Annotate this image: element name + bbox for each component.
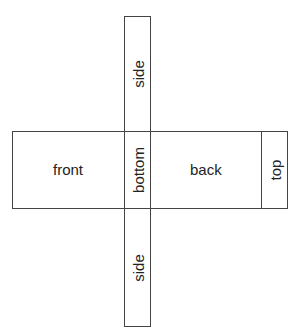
face-side-top: side (124, 16, 151, 132)
face-side-bottom-label: side (129, 254, 146, 282)
face-front-label: front (53, 161, 83, 178)
face-bottom-label: bottom (129, 147, 146, 193)
face-side-top-label: side (129, 60, 146, 88)
face-top: top (261, 131, 288, 209)
face-top-label: top (266, 160, 283, 181)
face-back-label: back (190, 161, 222, 178)
face-bottom: bottom (124, 131, 151, 209)
face-side-bottom: side (124, 208, 151, 327)
face-back: back (150, 131, 262, 209)
face-front: front (12, 131, 125, 209)
